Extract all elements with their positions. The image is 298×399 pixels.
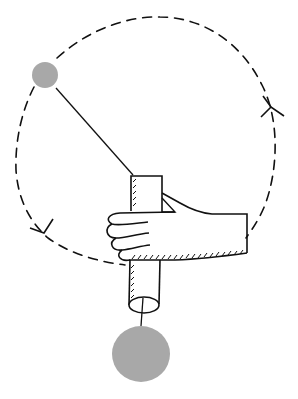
hand-shape bbox=[107, 193, 247, 260]
small-ball bbox=[32, 62, 58, 88]
tube-lower bbox=[129, 260, 160, 313]
diagram-figure: Whirling ball on string through tube (ce… bbox=[0, 0, 298, 399]
diagram-canvas bbox=[0, 0, 298, 399]
orbit-path bbox=[16, 17, 275, 265]
string-line bbox=[56, 88, 133, 175]
large-ball bbox=[112, 326, 170, 382]
tube-upper bbox=[131, 176, 162, 212]
